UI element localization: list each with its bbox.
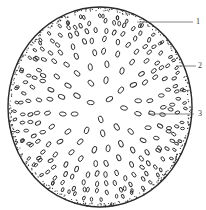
label-1: 1 — [196, 18, 200, 26]
cross-section-figure: 1 2 3 — [0, 0, 206, 210]
cross-section-drawing — [0, 0, 206, 210]
label-3: 3 — [198, 110, 202, 118]
label-2: 2 — [198, 62, 202, 70]
